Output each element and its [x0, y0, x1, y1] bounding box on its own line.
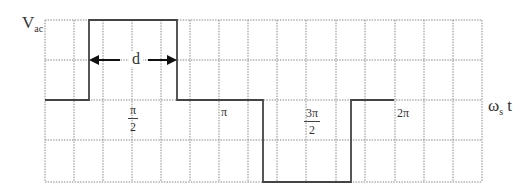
pulse-width-label: d: [129, 51, 143, 67]
tick-label-three-pi-over-2: 3π 2: [304, 107, 320, 136]
x-axis-label: ωs t: [488, 97, 512, 117]
y-axis-label: Vac: [22, 14, 43, 34]
tick-label-two-pi: 2π: [397, 107, 409, 119]
tick-label-pi: π: [221, 106, 227, 118]
waveform-diagram: [0, 0, 529, 188]
tick-label-pi-over-2: π 2: [128, 104, 138, 133]
